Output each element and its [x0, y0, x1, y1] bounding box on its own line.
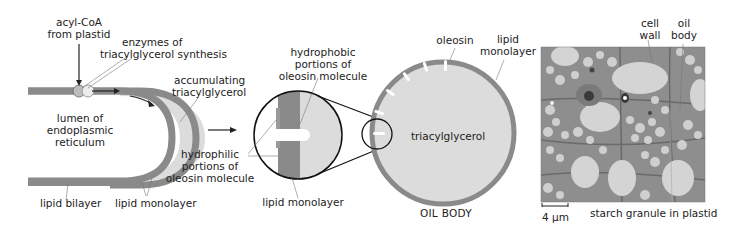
oil-body-panel: oleosin lipid monolayer triacylglycerol … — [362, 33, 537, 219]
label-lumen-2: endoplasmic — [47, 124, 114, 136]
oil-body-formation-diagram: acyl-CoA from plastid enzymes of triacyl… — [0, 0, 729, 237]
lipid-bilayer-bottom — [28, 178, 123, 186]
label-hydrophobic-3: oleosin molecule — [279, 70, 367, 82]
oleosin-icon — [373, 132, 385, 135]
leader-line — [292, 178, 298, 198]
label-oleosin: oleosin — [436, 34, 473, 46]
label-hydrophobic: hydrophobic — [290, 46, 355, 58]
label-cell-wall-2: wall — [640, 29, 661, 41]
label-oil-body-2: body — [671, 29, 697, 41]
label-cell-wall: cell — [641, 17, 659, 29]
label-acyl-coa: acyl-CoA — [56, 16, 103, 28]
label-lumen-3: reticulum — [55, 136, 105, 148]
label-oil-body: oil — [678, 17, 690, 29]
electron-micrograph — [541, 46, 710, 202]
label-lipid-monolayer: lipid monolayer — [115, 197, 197, 209]
leader-line — [496, 60, 504, 80]
label-hydrophilic-2: portions of — [182, 160, 239, 172]
label-lipid-monolayer-ob-2: monolayer — [480, 45, 537, 57]
leader-line — [82, 56, 128, 88]
micrograph-panel: 4 µm cell wall oil body starch granule i… — [541, 17, 717, 223]
label-hydrophilic: hydrophilic — [181, 148, 239, 160]
leader-line — [88, 58, 132, 88]
label-lipid-monolayer-ob: lipid — [497, 33, 519, 45]
label-lumen: lumen of — [57, 112, 104, 124]
label-accumulating: accumulating — [174, 74, 245, 86]
label-triacylglycerol: triacylglycerol — [411, 130, 485, 142]
oleosin-molecule — [272, 129, 310, 141]
label-hydrophilic-3: oleosin molecule — [166, 172, 254, 184]
label-oil-body-title: OIL BODY — [420, 207, 472, 219]
label-scale-bar: 4 µm — [542, 211, 569, 223]
arrowhead-icon — [230, 127, 237, 133]
label-lipid-monolayer-zoom: lipid monolayer — [262, 196, 344, 208]
leader-line — [450, 48, 455, 60]
label-hydrophobic-2: portions of — [295, 58, 352, 70]
oleosin-icon — [444, 60, 447, 71]
label-enzymes: enzymes of — [122, 36, 183, 48]
label-starch-granule: starch granule in plastid — [590, 207, 717, 219]
label-enzymes-2: triacylglycerol synthesis — [100, 48, 227, 60]
label-lipid-bilayer: lipid bilayer — [40, 197, 102, 209]
label-accumulating-2: triacylglycerol — [172, 86, 246, 98]
label-acyl-coa-2: from plastid — [48, 28, 111, 40]
